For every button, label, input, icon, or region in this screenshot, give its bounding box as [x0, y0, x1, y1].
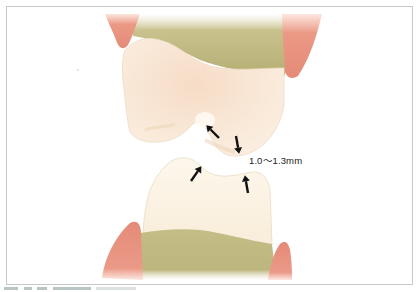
figure-caption-truncated — [4, 287, 204, 292]
speck — [77, 69, 79, 71]
caption-fragment — [53, 287, 91, 290]
caption-fragment — [24, 287, 32, 290]
caption-fragment — [96, 287, 136, 290]
caption-fragment — [37, 287, 47, 290]
tooth-occlusion-illustration — [0, 0, 420, 292]
measurement-label: 1.0〜1.3mm — [249, 153, 302, 167]
caption-fragment — [4, 287, 18, 290]
